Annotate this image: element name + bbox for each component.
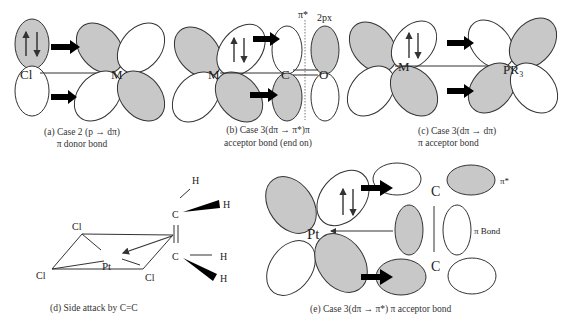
caption-c-line2: π acceptor bond <box>418 138 479 148</box>
pt-cl-right-bond <box>122 259 140 265</box>
atom-label-c-top: C <box>431 184 440 199</box>
caption-b-line1: (b) Case 3(dπ → π*)π <box>226 125 310 136</box>
pi-bond-lobe-left <box>395 205 423 255</box>
c-pi-star-lobe-bottom-right <box>448 258 496 294</box>
atom-label-pr3: PR₃ <box>503 62 523 77</box>
atom-label-h1: H <box>192 175 199 186</box>
donation-arrow-top <box>51 40 80 54</box>
atom-label-c-bottom: C <box>431 259 440 274</box>
caption-a-line1: (a) Case 2 (p → dπ) <box>44 127 120 138</box>
caption-e: (e) Case 3(dπ → π*) π acceptor bond <box>310 304 452 315</box>
label-2px: 2px <box>317 12 332 23</box>
atom-label-c: C <box>281 67 290 82</box>
wedge-bond-bottom <box>183 258 217 281</box>
caption-a-line2: π donor bond <box>57 139 108 149</box>
cl-p-lobe-top <box>15 19 49 69</box>
label-pi-bond: π Bond <box>474 226 501 236</box>
panel-c-d-d-acceptor: M PR₃ (c) Case 3(dπ → dπ) π acceptor bon… <box>338 9 568 148</box>
square-plane <box>52 234 173 269</box>
orbital-bonding-diagram: Cl M (a) Case 2 (p → dπ) π donor bond M … <box>0 0 571 327</box>
atom-label-cl-top: Cl <box>72 221 82 232</box>
atom-label-pt: Pt <box>102 260 111 272</box>
atom-label-h4: H <box>220 273 227 284</box>
caption-d: (d) Side attack by C=C <box>50 303 138 314</box>
atom-label-m: M <box>208 67 220 82</box>
c-h-bond-top <box>180 189 190 198</box>
pi-bond-lobe-right <box>443 205 471 255</box>
panel-e-side-on-acceptor: Pt C C π* π Bond (e) Case 3(dπ → π*) π a… <box>255 160 509 315</box>
atom-label-c-top: C <box>172 209 179 220</box>
caption-c-line1: (c) Case 3(dπ → dπ) <box>418 126 496 137</box>
pt-cl-top-bond <box>82 234 101 250</box>
atom-label-h2: H <box>223 199 230 210</box>
atom-label-cl-left: Cl <box>36 270 46 281</box>
label-pi-star: π* <box>298 9 308 20</box>
panel-a-pi-donor: Cl M (a) Case 2 (p → dπ) π donor bond <box>15 14 174 149</box>
pt-d-lobe-bottom-left <box>257 231 326 304</box>
c-pi-star-lobe-top-right <box>447 165 495 195</box>
panel-d-side-attack: Pt Cl Cl Cl C C H H H H (d) Side attack … <box>36 175 230 314</box>
atom-label-c-bottom: C <box>172 251 179 262</box>
wedge-bond-top <box>183 200 220 212</box>
caption-b-line2: acceptor bond (end on) <box>224 138 312 149</box>
donation-arrow-bottom <box>51 90 77 104</box>
atom-label-m: M <box>111 67 123 82</box>
pt-cl-left-bond <box>52 261 104 269</box>
atom-label-pt: Pt <box>307 226 320 242</box>
label-pi-star: π* <box>500 176 510 186</box>
atom-label-o: O <box>319 67 328 82</box>
atom-label-cl-right: Cl <box>145 272 155 283</box>
atom-label-cl: Cl <box>20 67 33 82</box>
panel-b-end-on-acceptor: M C O π* 2px (b) Case 3(dπ → π*)π accept… <box>163 9 339 149</box>
atom-label-m: M <box>398 59 410 74</box>
atom-label-h3: H <box>220 251 227 262</box>
